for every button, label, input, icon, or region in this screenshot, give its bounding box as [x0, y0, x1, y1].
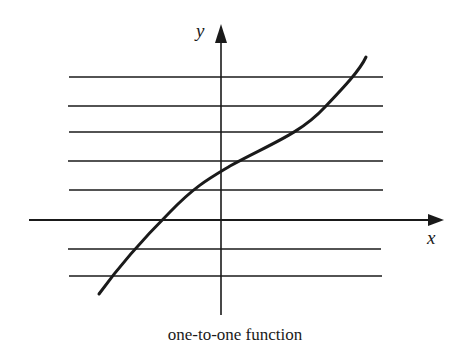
horizontal-test-lines — [68, 77, 383, 276]
y-axis-label: y — [196, 20, 204, 42]
x-axis-arrow-icon — [428, 214, 444, 226]
one-to-one-function-diagram — [0, 0, 470, 354]
function-curve — [99, 57, 366, 294]
diagram-caption: one-to-one function — [0, 325, 470, 345]
y-axis-arrow-icon — [215, 24, 227, 43]
x-axis-label: x — [427, 227, 435, 249]
